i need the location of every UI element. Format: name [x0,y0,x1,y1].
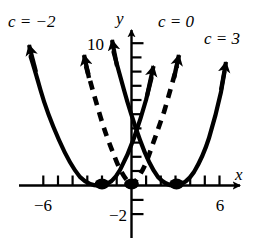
axes-group [19,30,240,238]
vertex-dot-c-3 [169,179,184,190]
curve-label-c-minus-2: c = −2 [8,12,56,31]
parabola-figure: c = −2 c = 0 c = 3 y x 10 −2 −6 6 [0,0,273,245]
vertex-dot-c-0 [124,179,139,190]
curve-label-c-0: c = 0 [158,12,195,31]
y-tick-label-neg2: −2 [109,206,127,225]
x-tick-label-6: 6 [216,196,225,215]
y-axis-label: y [114,9,124,28]
y-tick-label-10: 10 [87,35,104,54]
vertex-dot-c-minus-2 [95,179,110,190]
figure-canvas: c = −2 c = 0 c = 3 y x 10 −2 −6 6 [0,0,273,245]
curve-c-3 [112,40,226,186]
curve-c-minus-2 [29,45,154,186]
curve-label-c-3: c = 3 [204,29,240,48]
vertex-markers [95,179,184,190]
x-tick-label-neg6: −6 [34,196,52,215]
x-axis-label: x [234,165,243,184]
